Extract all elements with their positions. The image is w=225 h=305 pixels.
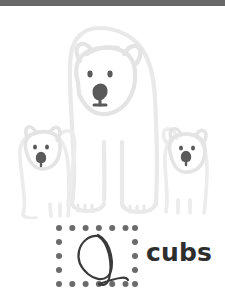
worksheet-page: cubs — [0, 0, 225, 305]
dotted-tracing-box[interactable] — [53, 222, 141, 290]
adult-polar-bear-face-features — [87, 71, 112, 78]
polar-bear-cub-left-nose — [37, 153, 45, 166]
polar-bear-cub-left-shape — [20, 131, 75, 219]
adult-right-eye — [107, 71, 112, 78]
adult-polar-bear-nose — [94, 85, 106, 105]
adult-left-eye — [87, 71, 92, 78]
polar-bear-cub-right-nose — [182, 152, 190, 165]
cub-left-eye-right — [45, 144, 49, 149]
word-label: cubs — [146, 240, 212, 265]
polar-bear-cub-right-head — [169, 129, 206, 172]
polar-bear-cub-right-face-features — [179, 145, 195, 150]
header-bar — [0, 0, 225, 6]
cub-left-eye-left — [33, 144, 37, 149]
cub-right-eye-left — [179, 145, 183, 150]
word-row: cubs — [0, 219, 225, 295]
tracing-letter-q — [78, 235, 128, 285]
polar-bear-family-illustration — [0, 14, 225, 219]
polar-bear-cub-left-face-features — [33, 144, 49, 149]
adult-polar-bear-head — [76, 44, 140, 114]
cub-right-eye-right — [191, 145, 195, 150]
